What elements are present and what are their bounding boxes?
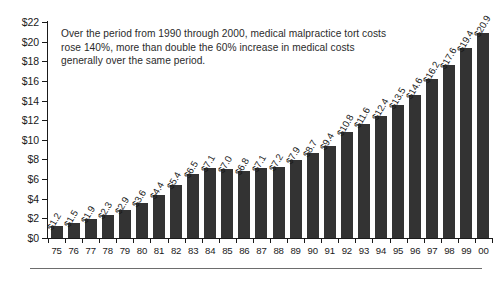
y-axis-tick [42, 238, 47, 239]
x-axis-tick-label: 81 [150, 245, 167, 256]
x-axis-tick [475, 239, 476, 243]
x-axis-tick [253, 239, 254, 243]
y-axis-tick [42, 199, 47, 200]
x-axis-tick [150, 239, 151, 243]
x-axis-tick [99, 239, 100, 243]
y-axis-tick-label: $8 [0, 154, 39, 164]
bar [153, 195, 165, 238]
x-axis-tick-label: 83 [185, 245, 202, 256]
x-axis-tick-label: 86 [236, 245, 253, 256]
y-axis-tick [42, 81, 47, 82]
x-axis-tick-label: 98 [441, 245, 458, 256]
x-axis-tick-label: 75 [48, 245, 65, 256]
x-axis-tick-label: 97 [424, 245, 441, 256]
bar [238, 171, 250, 238]
y-axis-tick-label: $2 [0, 213, 39, 223]
y-axis-tick [42, 179, 47, 180]
x-axis-tick [270, 239, 271, 243]
x-axis-tick [372, 239, 373, 243]
x-axis-tick-label: 93 [355, 245, 372, 256]
x-axis-tick-label: 76 [65, 245, 82, 256]
y-axis-tick [42, 101, 47, 102]
x-axis-tick [65, 239, 66, 243]
x-axis-tick [48, 239, 49, 243]
bar [460, 48, 472, 238]
bar [170, 185, 182, 238]
bar [273, 167, 285, 238]
y-axis-tick-label: $4 [0, 194, 39, 204]
x-axis-tick [133, 239, 134, 243]
x-axis-tick-label: 85 [219, 245, 236, 256]
y-axis-tick [42, 218, 47, 219]
x-axis-tick-label: 91 [321, 245, 338, 256]
bar [341, 132, 353, 238]
x-axis-tick-label: 94 [372, 245, 389, 256]
y-axis-tick [42, 22, 47, 23]
bar [307, 153, 319, 238]
y-axis-tick [42, 159, 47, 160]
y-axis-tick-label: $12 [0, 115, 39, 125]
bar-value-label: $12.4 [370, 97, 390, 122]
x-axis-tick-label: 82 [168, 245, 185, 256]
x-axis-tick-label: 87 [253, 245, 270, 256]
x-axis-tick-label: 00 [475, 245, 492, 256]
y-axis-tick-label: $20 [0, 37, 39, 47]
y-axis-tick-label: $16 [0, 76, 39, 86]
y-axis-tick-label: $14 [0, 96, 39, 106]
x-axis-tick [355, 239, 356, 243]
y-axis-tick-label: $22 [0, 17, 39, 27]
x-axis-tick-label: 78 [99, 245, 116, 256]
bar [324, 146, 336, 238]
x-axis-tick-label: 96 [407, 245, 424, 256]
y-axis-tick [42, 42, 47, 43]
y-axis-tick [42, 61, 47, 62]
bar [477, 33, 489, 238]
bar [358, 124, 370, 238]
x-axis-tick-label: 89 [287, 245, 304, 256]
x-axis-tick [338, 239, 339, 243]
y-axis-tick [42, 140, 47, 141]
x-axis-tick [168, 239, 169, 243]
plot-area: $1.2$1.5$1.9$2.3$2.9$3.6$4.4$5.4$6.5$7.1… [48, 22, 492, 238]
x-axis-tick-label: 88 [270, 245, 287, 256]
x-axis-tick-label: 84 [202, 245, 219, 256]
bar [375, 116, 387, 238]
bar [290, 160, 302, 238]
x-axis-tick [202, 239, 203, 243]
x-axis-tick [407, 239, 408, 243]
x-axis-tick [185, 239, 186, 243]
x-axis-tick [219, 239, 220, 243]
x-axis-tick [236, 239, 237, 243]
x-axis-tick [287, 239, 288, 243]
x-axis-tick-label: 79 [116, 245, 133, 256]
y-axis-tick-label: $0 [0, 233, 39, 243]
bar [221, 169, 233, 238]
bar [204, 168, 216, 238]
y-axis-tick [42, 120, 47, 121]
x-axis-tick [492, 239, 493, 243]
bar [443, 65, 455, 238]
x-axis-tick [458, 239, 459, 243]
x-axis-tick-label: 90 [304, 245, 321, 256]
footer-divider [30, 268, 482, 269]
chart-container: Over the period from 1990 through 2000, … [0, 0, 500, 282]
x-axis-tick [390, 239, 391, 243]
x-axis-tick [441, 239, 442, 243]
x-axis-tick [424, 239, 425, 243]
x-axis-tick [304, 239, 305, 243]
y-axis-tick-label: $18 [0, 56, 39, 66]
bar [255, 168, 267, 238]
y-axis-tick-label: $10 [0, 135, 39, 145]
x-axis-tick-label: 99 [458, 245, 475, 256]
bar [392, 105, 404, 238]
x-axis-tick-label: 92 [338, 245, 355, 256]
x-axis-tick-label: 80 [133, 245, 150, 256]
x-axis-tick [116, 239, 117, 243]
bar [187, 174, 199, 238]
bar [426, 79, 438, 238]
y-axis-tick-label: $6 [0, 174, 39, 184]
bar [409, 95, 421, 238]
x-axis-tick [82, 239, 83, 243]
x-axis-tick-label: 77 [82, 245, 99, 256]
x-axis-tick [321, 239, 322, 243]
